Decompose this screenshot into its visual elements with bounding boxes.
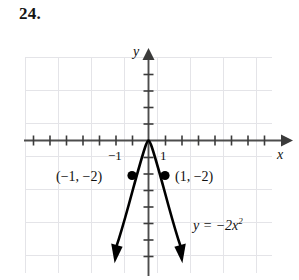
- graph-figure: [0, 0, 299, 280]
- x-tick-label-one: 1: [160, 148, 167, 164]
- curve-arrow-right: [174, 244, 185, 264]
- equation-exponent: 2: [238, 216, 243, 226]
- y-axis-label: y: [133, 44, 139, 60]
- equation-base: y = −2x: [193, 218, 238, 233]
- curve-arrow-left: [111, 244, 122, 264]
- x-axis: [24, 135, 293, 147]
- point-marker-right: [160, 171, 169, 180]
- point-marker-left: [127, 171, 136, 180]
- x-tick-label-negative-one: −1: [108, 148, 122, 164]
- exercise-figure-page: 24.: [0, 0, 299, 280]
- point-label-right: (1, −2): [175, 169, 213, 185]
- equation-label: y = −2x2: [193, 216, 243, 234]
- point-label-left: (−1, −2): [56, 169, 102, 185]
- x-axis-label: x: [277, 147, 283, 163]
- y-axis: [143, 48, 155, 276]
